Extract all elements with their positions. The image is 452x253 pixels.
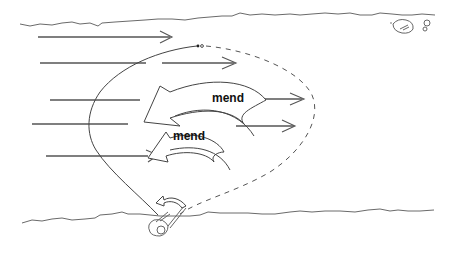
current-arrow [38,31,172,43]
current-arrow [46,150,158,162]
fly-icon [197,45,204,48]
near-bank-line [22,209,434,223]
mending-diagram: mend mend [0,0,452,253]
rock-icon [390,20,430,34]
mend-label-lower: mend [173,129,205,143]
mend-label-upper: mend [212,91,244,105]
mend-arrow-lower: mend [148,129,230,170]
far-bank-line [20,13,435,26]
rod-mend-arrow-icon [156,196,186,208]
mend-arrow-upper: mend [144,82,266,136]
